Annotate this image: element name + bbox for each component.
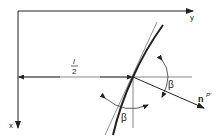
angle-arc-lower <box>105 98 148 109</box>
dimension-denominator: 2 <box>72 67 77 76</box>
angle-label-lower: β <box>121 112 127 123</box>
normal-vector-label: n <box>198 94 204 104</box>
normal-vector-superscript: P' <box>206 92 212 98</box>
dimension-numerator: l <box>73 57 75 66</box>
geometry-diagram: y x l 2 β β n P' <box>0 0 221 140</box>
angle-label-upper: β <box>168 79 174 90</box>
x-axis-label: x <box>9 121 13 130</box>
y-axis-label: y <box>190 13 194 22</box>
tangent-line <box>105 22 157 135</box>
